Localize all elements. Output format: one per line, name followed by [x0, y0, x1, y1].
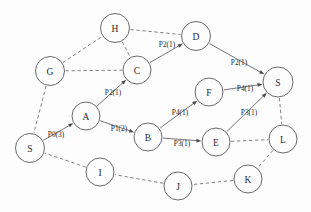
edge-label-e-A-C: P2(1) — [105, 88, 122, 97]
node-J[interactable]: J — [164, 172, 192, 200]
edge-label-e-E-Sright: P3(1) — [241, 108, 258, 117]
edge-I-to-S_left — [45, 153, 86, 167]
edge-L-to-K — [258, 150, 273, 167]
node-F[interactable]: F — [195, 78, 223, 106]
edge-J-to-I — [115, 175, 163, 184]
edge-K-to-J — [193, 180, 233, 184]
edge-label-e-Sleft-A: P0(3) — [48, 130, 65, 139]
edge-G-to-S_left — [34, 86, 46, 133]
node-label-K: K — [245, 175, 252, 185]
node-B[interactable]: B — [134, 123, 162, 151]
edge-label-e-B-E: P3(1) — [174, 139, 191, 148]
edge-E-to-L — [231, 140, 268, 142]
node-C[interactable]: C — [123, 56, 151, 84]
edge-label-e-A-B: P1(2) — [111, 124, 128, 133]
node-D[interactable]: D — [182, 22, 211, 51]
node-H[interactable]: H — [101, 14, 130, 43]
edge-H-to-D — [130, 30, 180, 35]
node-label-D: D — [193, 32, 200, 42]
arrowhead-B-to-F — [192, 101, 197, 105]
edge-H-to-C — [122, 42, 130, 57]
arrowhead-F-to-S_right — [257, 83, 262, 87]
node-label-B: B — [145, 133, 151, 143]
arrowhead-S_left-to-A — [68, 123, 73, 127]
node-S_left[interactable]: S — [16, 134, 45, 163]
edge-label-e-D-Sright: P2(1) — [231, 58, 248, 67]
arrowhead-D-to-S_right — [259, 70, 264, 74]
node-label-L: L — [280, 135, 286, 145]
node-label-J: J — [176, 182, 180, 192]
node-label-F: F — [206, 88, 211, 98]
node-label-E: E — [213, 138, 219, 148]
edge-S_right-to-L — [279, 98, 281, 124]
edge-G-to-C — [66, 70, 123, 71]
node-S_right[interactable]: S — [263, 67, 293, 97]
arrowhead-B-to-E — [196, 139, 201, 143]
node-label-H: H — [112, 24, 119, 34]
arrowhead-A-to-B — [129, 129, 134, 133]
node-A[interactable]: A — [72, 102, 100, 130]
node-label-A: A — [83, 112, 90, 122]
node-G[interactable]: G — [36, 57, 65, 86]
node-label-G: G — [47, 67, 54, 77]
edge-G-to-H — [63, 37, 102, 63]
edge-label-e-C-D: P2(1) — [159, 40, 176, 49]
node-E[interactable]: E — [202, 128, 230, 156]
node-label-S_left: S — [27, 144, 32, 154]
edge-label-e-F-Sright: P4(1) — [237, 84, 254, 93]
node-label-C: C — [134, 66, 140, 76]
arrowhead-C-to-D — [178, 44, 183, 48]
node-label-S_right: S — [275, 78, 280, 88]
node-K[interactable]: K — [234, 165, 262, 193]
graph-figure: SGHCDABFESLKJI P2(1)P2(1)P0(3)P2(1)P1(2)… — [0, 0, 311, 212]
diagram-canvas: SGHCDABFESLKJI P2(1)P2(1)P0(3)P2(1)P1(2)… — [0, 0, 311, 212]
node-I[interactable]: I — [86, 158, 114, 186]
node-L[interactable]: L — [269, 125, 297, 153]
edge-label-e-B-F: P4(1) — [172, 108, 189, 117]
node-label-I: I — [98, 168, 101, 178]
